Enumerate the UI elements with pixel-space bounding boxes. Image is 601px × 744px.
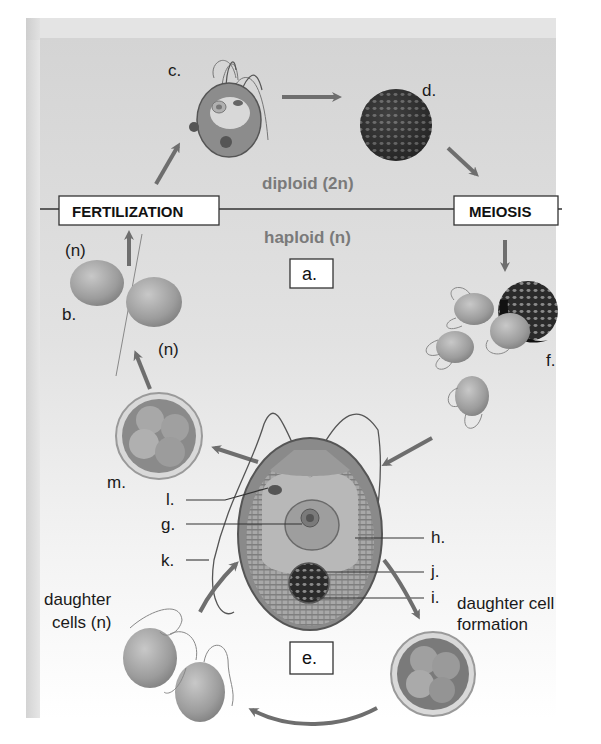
fertilization-box: FERTILIZATION — [59, 196, 219, 225]
label-i: i. — [431, 588, 440, 607]
meiosis-label: MEIOSIS — [469, 203, 532, 220]
label-g: g. — [161, 515, 175, 534]
caption-daughter-line2: cells (n) — [52, 613, 112, 632]
ploidy-mark-top: (n) — [65, 241, 86, 260]
fertilization-label: FERTILIZATION — [72, 203, 183, 220]
ploidy-mark-bottom: (n) — [158, 340, 179, 359]
label-e: e. — [302, 648, 317, 668]
gamete-cyst-m — [116, 393, 202, 479]
label-box-e: e. — [290, 642, 333, 674]
label-c: c. — [168, 61, 181, 80]
daughter-formation-cyst — [391, 632, 475, 716]
life-cycle-diagram: diploid (2n) haploid (n) FERTILIZATION M… — [0, 0, 601, 744]
label-f: f. — [546, 351, 555, 370]
label-j: j. — [430, 562, 440, 581]
label-b: b. — [62, 305, 76, 324]
label-k: k. — [161, 551, 174, 570]
diploid-zone-label: diploid (2n) — [262, 174, 354, 193]
haploid-zone-label: haploid (n) — [264, 228, 351, 247]
label-l: l. — [166, 490, 175, 509]
caption-formation-line1: daughter cell — [457, 594, 554, 613]
label-m: m. — [107, 473, 126, 492]
label-a: a. — [302, 264, 317, 284]
label-box-a: a. — [290, 259, 333, 288]
caption-daughter-line1: daughter — [44, 590, 111, 609]
meiosis-box: MEIOSIS — [454, 196, 558, 225]
label-d: d. — [422, 81, 436, 100]
caption-formation-line2: formation — [457, 615, 528, 634]
label-h: h. — [431, 528, 445, 547]
